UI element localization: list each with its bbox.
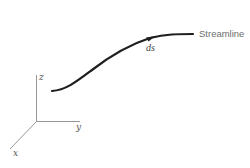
y-axis-label: y [76, 123, 81, 132]
ds-arrowhead-icon [146, 36, 155, 41]
streamline-curve [52, 34, 193, 91]
x-axis [10, 122, 37, 150]
streamline-diagram [0, 0, 250, 168]
z-axis-label: z [39, 73, 44, 82]
streamline-label: Streamline [199, 29, 244, 39]
x-axis-label: x [13, 149, 18, 158]
ds-label: ds [146, 43, 155, 53]
